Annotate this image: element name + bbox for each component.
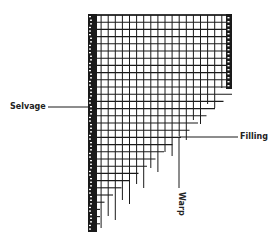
selvage-label: Selvage <box>10 102 46 111</box>
left-selvage <box>88 14 97 232</box>
warp-label: Warp <box>177 192 186 216</box>
fabric-diagram <box>0 0 275 240</box>
filling-label: Filling <box>240 132 268 141</box>
